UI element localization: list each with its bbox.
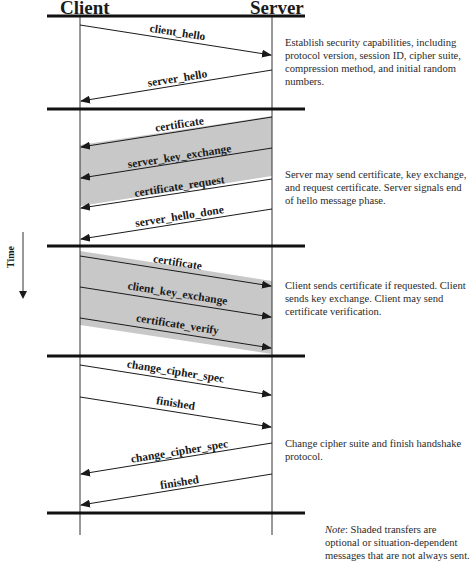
phase-2-description: Server may send certificate, key exchang… bbox=[285, 168, 470, 207]
footnote: Note: Shaded transfers are optional or s… bbox=[325, 523, 472, 562]
svg-text:finished: finished bbox=[159, 473, 200, 491]
svg-text:change_cipher_spec: change_cipher_spec bbox=[126, 358, 225, 386]
message-server-hello: server_hello bbox=[81, 67, 272, 101]
svg-text:change_cipher_spec: change_cipher_spec bbox=[130, 437, 229, 466]
message-server-hello-done: server_hello_done bbox=[81, 203, 272, 239]
note-text: : Shaded transfers are optional or situa… bbox=[325, 524, 470, 561]
svg-text:server_hello_done: server_hello_done bbox=[134, 203, 224, 229]
message-client-change-cipher-spec: change_cipher_spec bbox=[80, 358, 271, 395]
phase-1-description: Establish security capabilities, includi… bbox=[285, 36, 470, 88]
svg-text:client_hello: client_hello bbox=[149, 22, 207, 43]
message-client-finished: finished bbox=[80, 394, 271, 427]
message-client-hello: client_hello bbox=[80, 22, 271, 55]
time-arrow-icon bbox=[19, 232, 27, 299]
message-server-finished: finished bbox=[81, 473, 272, 505]
time-label: Time bbox=[5, 246, 16, 268]
phase-3-description: Client sends certificate if requested. C… bbox=[285, 279, 470, 318]
phase-4-description: Change cipher suite and finish handshake… bbox=[285, 437, 470, 463]
note-prefix: Note bbox=[325, 524, 345, 535]
message-server-change-cipher-spec: change_cipher_spec bbox=[81, 437, 272, 474]
